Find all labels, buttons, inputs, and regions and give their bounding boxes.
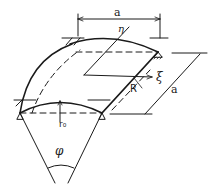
span-label-side: a: [171, 84, 178, 95]
front-left-support: [14, 100, 36, 119]
sector-left-line: [20, 113, 55, 183]
eta-label: η: [118, 24, 124, 34]
rise-label: r₀: [59, 120, 66, 129]
xi-axis: [84, 75, 152, 77]
angle-arc: [48, 165, 74, 168]
shell-diagram: [0, 0, 217, 194]
eta-axis: [84, 27, 129, 75]
front-right-support: [88, 100, 110, 119]
radius-label: R: [130, 84, 137, 94]
span-label-top: a: [114, 7, 121, 18]
xi-label: ξ: [156, 71, 163, 83]
sector-right-line: [68, 113, 102, 183]
back-right-support: [150, 38, 168, 59]
angle-label: φ: [55, 145, 63, 157]
back-arch: [70, 39, 158, 52]
